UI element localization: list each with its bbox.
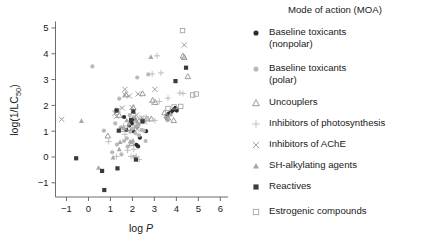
- legend-item-label: Reactives: [269, 180, 311, 192]
- legend-item-label: SH-alkylating agents: [269, 159, 357, 171]
- data-point: [136, 91, 141, 96]
- data-point: [152, 87, 157, 92]
- legend-item-6[interactable]: Reactives: [243, 180, 444, 193]
- data-point: [144, 139, 148, 143]
- plus-icon: [243, 117, 269, 130]
- legend-item-4[interactable]: Inhibitors of AChE: [243, 138, 444, 151]
- data-point: [79, 118, 84, 123]
- legend: Mode of action (MOA) Baseline toxicants …: [243, 0, 444, 243]
- data-point: [110, 150, 114, 154]
- data-point: [128, 154, 134, 160]
- data-point: [117, 147, 122, 152]
- legend-item-label: Estrogenic compounds: [269, 205, 367, 217]
- data-point: [173, 79, 177, 83]
- data-point: [114, 108, 118, 112]
- data-point: [165, 95, 171, 101]
- data-point: [166, 106, 170, 110]
- data-point: [182, 55, 188, 60]
- data-points: [59, 28, 198, 192]
- data-point: [177, 90, 183, 96]
- data-point: [135, 75, 139, 79]
- data-point: [136, 144, 140, 148]
- filled-triangle-light-icon: [243, 159, 269, 172]
- data-point: [154, 53, 160, 59]
- data-point: [117, 129, 121, 133]
- x-tick-label: 3: [152, 203, 157, 214]
- data-point: [148, 54, 153, 59]
- legend-item-label: Uncouplers: [269, 96, 318, 108]
- data-point: [133, 131, 137, 135]
- data-point: [158, 70, 164, 76]
- data-point: [129, 118, 133, 122]
- data-point: [140, 119, 144, 123]
- axes: [56, 22, 229, 198]
- y-tick-label: 5: [43, 22, 48, 33]
- data-point: [137, 133, 141, 137]
- data-point: [142, 129, 146, 133]
- data-point: [184, 66, 188, 70]
- data-point: [100, 169, 104, 173]
- x-tick-label: 5: [196, 203, 201, 214]
- x-axis-title: log P: [129, 222, 153, 234]
- data-point: [127, 94, 132, 99]
- data-point: [146, 72, 150, 76]
- filled-circle-light-icon: [243, 62, 269, 75]
- series-5: [79, 54, 173, 170]
- data-point: [119, 152, 123, 156]
- data-point: [106, 139, 112, 145]
- y-tick-label: 3: [43, 74, 48, 85]
- data-point: [185, 74, 191, 79]
- data-point: [111, 155, 116, 160]
- plot-svg: −10123456−1012345 log P log(1/LC50): [0, 0, 232, 243]
- data-point: [90, 64, 94, 68]
- x-tick-label: 0: [86, 203, 91, 214]
- x-tick-label: 4: [174, 203, 179, 214]
- cross-icon: [243, 138, 269, 151]
- data-point: [179, 104, 183, 108]
- data-point: [130, 138, 135, 143]
- y-tick-label: 4: [43, 48, 48, 59]
- data-point: [102, 129, 106, 133]
- filled-square-icon: [243, 180, 269, 193]
- legend-title: Mode of action (MOA): [288, 4, 382, 15]
- legend-item-0[interactable]: Baseline toxicants (nonpolar): [243, 26, 444, 49]
- legend-item-1[interactable]: Baseline toxicants (polar): [243, 62, 444, 85]
- data-point: [105, 133, 111, 138]
- x-tick-label: 1: [108, 203, 113, 214]
- data-point: [171, 118, 177, 123]
- legend-item-2[interactable]: Uncouplers: [243, 96, 444, 109]
- data-point: [131, 109, 135, 113]
- data-point: [180, 91, 186, 97]
- data-point: [74, 156, 78, 160]
- data-point: [102, 188, 106, 192]
- data-point: [149, 71, 155, 77]
- data-point: [125, 147, 131, 153]
- y-axis-title: log(1/LC50): [8, 84, 23, 136]
- legend-item-5[interactable]: SH-alkylating agents: [243, 159, 444, 172]
- legend-item-label: Inhibitors of AChE: [269, 138, 346, 150]
- data-point: [182, 42, 187, 47]
- legend-item-7[interactable]: Estrogenic compounds: [243, 205, 444, 218]
- y-tick-label: 2: [43, 100, 48, 111]
- legend-item-label: Baseline toxicants (nonpolar): [269, 26, 346, 49]
- open-triangle-icon: [243, 96, 269, 109]
- data-point: [118, 139, 123, 144]
- data-point: [59, 117, 64, 122]
- y-tick-label: −1: [38, 177, 49, 188]
- figure-root: −10123456−1012345 log P log(1/LC50) Mode…: [0, 0, 444, 243]
- x-tick-label: 2: [130, 203, 135, 214]
- data-point: [131, 146, 137, 152]
- data-point: [180, 28, 184, 32]
- filled-circle-icon: [243, 26, 269, 39]
- scatter-plot-panel: −10123456−1012345 log P log(1/LC50): [0, 0, 232, 243]
- legend-item-label: Inhibitors of photosynthesis: [269, 117, 385, 129]
- x-tick-label: −1: [61, 203, 72, 214]
- legend-item-3[interactable]: Inhibitors of photosynthesis: [243, 117, 444, 130]
- x-tick-label: 6: [218, 203, 223, 214]
- data-point: [115, 166, 119, 170]
- data-point: [122, 87, 127, 92]
- data-point: [113, 121, 117, 125]
- data-point: [134, 157, 138, 161]
- legend-item-label: Baseline toxicants (polar): [269, 62, 346, 85]
- data-point: [117, 97, 121, 101]
